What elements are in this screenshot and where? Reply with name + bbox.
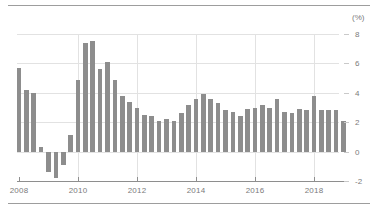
bar xyxy=(297,109,302,152)
bar xyxy=(201,94,206,151)
x-tick-2012 xyxy=(137,177,138,182)
bar xyxy=(90,41,95,151)
y-axis-unit-label: (%) xyxy=(352,13,364,22)
bar xyxy=(231,112,236,152)
gridline-y-6 xyxy=(17,63,339,64)
x-tick-label-2008: 2008 xyxy=(10,186,29,195)
bar xyxy=(304,110,309,151)
top-divider-rule xyxy=(8,5,370,6)
bar xyxy=(113,80,118,152)
x-axis-line xyxy=(17,181,349,182)
bar xyxy=(223,110,228,151)
bottom-divider-rule xyxy=(8,203,370,204)
y-tick-label-0: 0 xyxy=(355,147,359,156)
y-tick-8 xyxy=(344,34,349,35)
bar xyxy=(24,90,29,152)
bar xyxy=(127,102,132,152)
bar xyxy=(76,80,81,152)
bar xyxy=(172,121,177,152)
bar xyxy=(253,108,258,152)
x-tick-label-2016: 2016 xyxy=(246,186,265,195)
y-tick-label-8: 8 xyxy=(355,30,359,39)
x-tick-label-2018: 2018 xyxy=(305,186,324,195)
bar xyxy=(39,147,44,151)
x-tick-label-2012: 2012 xyxy=(128,186,147,195)
bar xyxy=(68,135,73,151)
y-tick--2 xyxy=(344,181,349,182)
y-tick-2 xyxy=(344,122,349,123)
x-tick-2010 xyxy=(78,177,79,182)
x-tick-2016 xyxy=(255,177,256,182)
bar xyxy=(267,108,272,152)
bar xyxy=(31,93,36,152)
x-tick-2014 xyxy=(196,177,197,182)
y-tick-label-4: 4 xyxy=(355,88,359,97)
x-tick-2008 xyxy=(19,177,20,182)
y-tick-label-6: 6 xyxy=(355,59,359,68)
bar xyxy=(208,99,213,152)
bar xyxy=(17,68,22,152)
bar xyxy=(275,99,280,152)
bar xyxy=(157,121,162,152)
bar xyxy=(319,110,324,151)
bar xyxy=(238,116,243,151)
y-tick-label-2: 2 xyxy=(355,118,359,127)
bar xyxy=(164,119,169,151)
bar xyxy=(105,62,110,152)
bar xyxy=(245,109,250,152)
bar xyxy=(326,110,331,151)
y-tick-0 xyxy=(344,152,349,153)
plot-area xyxy=(17,34,339,181)
x-tick-label-2014: 2014 xyxy=(187,186,206,195)
bar xyxy=(334,110,339,151)
bar xyxy=(260,105,265,152)
bar xyxy=(142,115,147,152)
gridline-y-8 xyxy=(17,34,339,35)
bar xyxy=(312,96,317,152)
bar xyxy=(194,99,199,152)
bar xyxy=(149,116,154,151)
y-tick-4 xyxy=(344,93,349,94)
bar xyxy=(83,43,88,152)
bar xyxy=(98,69,103,151)
bar xyxy=(282,112,287,152)
gridline-y-4 xyxy=(17,93,339,94)
bar xyxy=(179,113,184,151)
x-tick-label-2010: 2010 xyxy=(69,186,88,195)
bar xyxy=(54,152,59,178)
bar xyxy=(290,113,295,151)
y-tick-label--2: -2 xyxy=(355,177,362,186)
bar xyxy=(135,108,140,152)
chart-figure: (%) 200820102012201420162018 -202468 xyxy=(0,0,378,209)
bar xyxy=(61,152,66,165)
bar xyxy=(216,103,221,152)
bar xyxy=(186,105,191,152)
x-tick-2018 xyxy=(314,177,315,182)
bar xyxy=(341,121,346,152)
bar xyxy=(120,96,125,152)
bar xyxy=(46,152,51,173)
y-tick-6 xyxy=(344,63,349,64)
